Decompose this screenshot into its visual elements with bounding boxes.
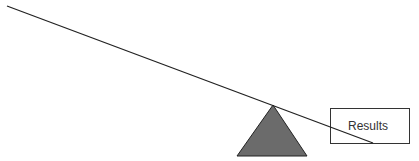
fulcrum-triangle <box>237 105 307 156</box>
seesaw-diagram <box>0 0 419 161</box>
results-label: Results <box>348 119 388 133</box>
lever-beam <box>7 6 373 143</box>
